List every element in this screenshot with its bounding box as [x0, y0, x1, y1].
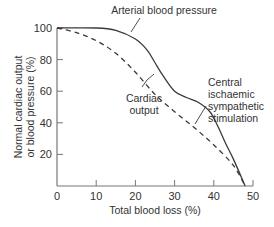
- annotation-central-text: ischaemic: [208, 88, 255, 100]
- annotation-cardiac-text: output: [129, 104, 158, 116]
- y-tick-label: 20: [40, 148, 52, 160]
- annotations: Arterial blood pressureCardiacoutputCent…: [111, 4, 264, 124]
- x-axis-title: Total blood loss (%): [109, 204, 201, 216]
- x-tick-label: 20: [129, 190, 141, 202]
- y-axis-title-line1: Normal cardiac output: [12, 56, 24, 159]
- y-tick-label: 40: [40, 117, 52, 129]
- annotation-cardiac-leader: [142, 74, 154, 87]
- annotation-central-leader: [195, 106, 206, 124]
- y-tick-label: 80: [40, 54, 52, 66]
- x-tick-label: 10: [90, 190, 102, 202]
- y-tick-label: 100: [34, 22, 52, 34]
- annotation-central-text: stimulation: [208, 112, 258, 124]
- annotation-arterial-leader: [131, 18, 140, 32]
- x-tick-label: 50: [247, 190, 259, 202]
- annotation-cardiac-text: Cardiac: [126, 92, 162, 104]
- y-axis-title-line2: or blood pressure (%): [24, 57, 36, 158]
- annotation-central-text: Central: [208, 76, 242, 88]
- y-tick-label: 60: [40, 85, 52, 97]
- annotation-arterial-text: Arterial blood pressure: [111, 4, 217, 16]
- chart: 0102030405020406080100 Arterial blood pr…: [0, 0, 274, 227]
- x-tick-label: 40: [208, 190, 220, 202]
- x-tick-label: 0: [54, 190, 60, 202]
- x-tick-label: 30: [168, 190, 180, 202]
- annotation-central-text: sympathetic: [208, 100, 264, 112]
